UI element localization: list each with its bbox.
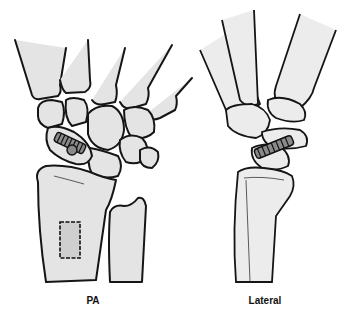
lateral-metacarpals [200,10,336,114]
pa-radius [37,166,116,282]
lateral-view-label: Lateral [240,295,290,306]
bone-graft-site [60,222,80,258]
pa-view [15,40,192,282]
pa-view-label: PA [78,295,108,306]
pa-scaphoid-screw [46,127,92,165]
lateral-view [200,10,336,282]
lateral-carpals [226,98,307,170]
wrist-illustration [0,0,347,313]
lateral-radius [234,168,293,283]
pa-ulna [109,198,146,282]
